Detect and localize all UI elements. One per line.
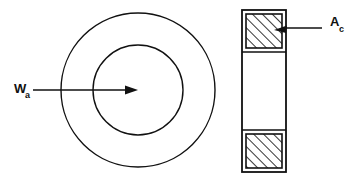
- bottom-block-hatch-fill: [246, 134, 282, 168]
- wa-label-subscript: a: [25, 90, 31, 100]
- bottom-cross-section-block: [246, 134, 282, 168]
- wa-arrowhead-icon: [125, 86, 138, 95]
- wa-label-group: W a: [14, 81, 31, 100]
- ac-label-group: A c: [330, 14, 344, 34]
- ac-label-subscript: c: [339, 24, 344, 34]
- wa-leader-group: [33, 86, 138, 95]
- side-view-group: [242, 10, 286, 172]
- diagram-canvas: W a A: [0, 0, 360, 179]
- engineering-diagram: W a A: [0, 0, 360, 179]
- top-cross-section-block: [246, 14, 282, 48]
- top-block-hatch-fill: [246, 14, 282, 48]
